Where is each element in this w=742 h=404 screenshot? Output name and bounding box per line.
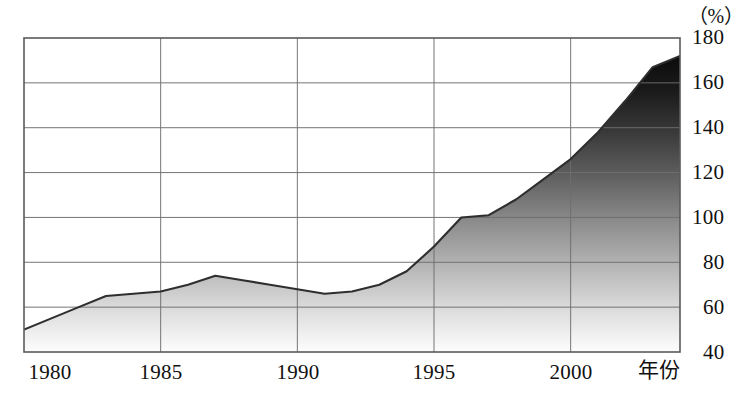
y-tick-label-60: 60 [703, 297, 724, 318]
y-axis-unit-label: （%） [688, 6, 742, 26]
y-tick-label-100: 100 [692, 207, 724, 228]
x-axis-title: 年份 [638, 360, 680, 381]
x-tick-label-1995: 1995 [384, 362, 484, 383]
chart-figure: （%） 180 160 140 120 100 80 60 40 1980 19… [0, 0, 742, 404]
y-tick-label-80: 80 [703, 252, 724, 273]
x-tick-label-1985: 1985 [111, 362, 211, 383]
y-tick-label-40: 40 [703, 342, 724, 363]
x-tick-label-1980: 1980 [0, 362, 100, 383]
chart-plot-area [0, 0, 742, 404]
x-tick-label-1990: 1990 [248, 362, 348, 383]
y-tick-label-120: 120 [692, 162, 724, 183]
y-tick-label-140: 140 [692, 117, 724, 138]
y-tick-label-160: 160 [692, 72, 724, 93]
x-tick-label-2000: 2000 [521, 362, 621, 383]
y-tick-label-180: 180 [692, 27, 724, 48]
